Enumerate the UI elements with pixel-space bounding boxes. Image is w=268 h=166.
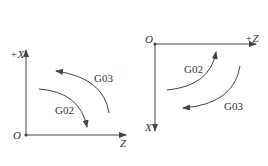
left-g03-label: G03 [94, 72, 113, 84]
left-origin-label: O [13, 129, 21, 141]
right-origin-label: O [145, 33, 153, 45]
left-diagram: O +X Z G03 G02 [10, 48, 127, 149]
left-origin-dot [24, 133, 27, 136]
right-x-axis-label: X [144, 121, 153, 133]
right-diagram: O +Z X G02 G03 [144, 32, 259, 133]
left-g02-label: G02 [55, 104, 74, 116]
right-g02-label: G02 [184, 63, 203, 75]
left-x-axis-label: +X [10, 48, 25, 60]
diagram-canvas: O +X Z G03 G02 O +Z X G02 G03 [0, 0, 268, 166]
right-z-axis-label: +Z [245, 32, 259, 44]
right-origin-dot [153, 42, 156, 45]
left-z-axis-label: Z [120, 137, 127, 149]
right-g03-label: G03 [224, 100, 243, 112]
